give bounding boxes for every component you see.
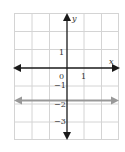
y-tick-neg2: −2 <box>54 100 66 109</box>
x-tick-1: 1 <box>81 72 86 81</box>
y-axis-up-arrow-icon <box>63 13 71 21</box>
y-tick-neg1: −1 <box>54 81 66 90</box>
y-axis-down-arrow-icon <box>63 132 71 140</box>
y-tick-neg3: −3 <box>54 117 66 126</box>
origin-label: 0 <box>59 72 64 81</box>
y-axis-label: y <box>71 14 77 23</box>
coordinate-graph: y x 1 0 1 −1 −2 −3 <box>0 0 125 152</box>
x-axis-label: x <box>109 57 114 66</box>
y-tick-1: 1 <box>59 48 64 57</box>
